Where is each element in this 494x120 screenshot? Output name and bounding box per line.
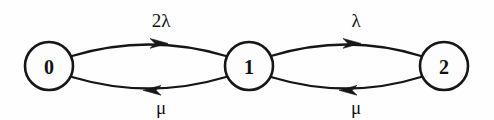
transition-arc-2-to-1 [271,77,421,89]
node-label-state-2: 2 [439,56,449,78]
transition-arc-1-to-0 [72,77,226,89]
node-label-state-0: 0 [44,56,54,78]
state-transition-diagram: 2λ μ λ μ 0 1 2 [0,0,494,120]
transition-arc-0-to-1 [72,45,226,57]
edge-group-0-to-1: 2λ [72,10,226,57]
node-group-state-1: 1 [225,42,273,90]
arrow-head-2-to-1 [339,85,357,95]
edge-group-1-to-0: μ [72,77,226,118]
node-group-state-0: 0 [25,42,73,90]
edge-group-1-to-2: λ [271,10,421,57]
rate-label-0-to-1: 2λ [152,10,172,31]
node-label-state-1: 1 [244,56,254,78]
arrow-head-1-to-0 [143,85,161,95]
markov-chain-canvas: 2λ μ λ μ 0 1 2 [0,0,494,120]
rate-label-1-to-2: λ [351,10,361,31]
rate-label-2-to-1: μ [351,97,361,118]
node-group-state-2: 2 [420,42,468,90]
edge-group-2-to-1: μ [271,77,421,118]
rate-label-1-to-0: μ [156,97,166,118]
